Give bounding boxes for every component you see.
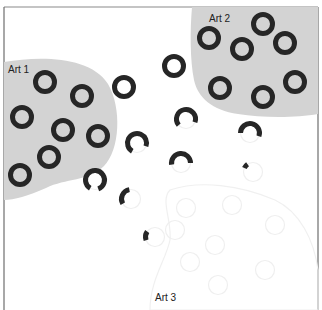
ghost-ring-icon [209, 276, 228, 295]
broken-ring-icon [128, 134, 147, 152]
ring-icon [115, 78, 134, 97]
broken-ring-icon [121, 190, 129, 204]
label-art2: Art 2 [209, 13, 231, 24]
broken-ring-icon [171, 153, 190, 164]
label-art3: Art 3 [155, 292, 177, 303]
broken-ring-icon [177, 110, 196, 126]
ghost-ring-icon [166, 221, 185, 240]
label-art1: Art 1 [8, 64, 30, 75]
broken-ring-icon [241, 124, 260, 137]
ghost-ring-icon [206, 236, 225, 255]
venn-ring-diagram: Art 1 Art 2 Art 3 [0, 0, 322, 310]
broken-ring-icon [86, 171, 105, 189]
ghost-ring-icon [146, 228, 165, 247]
ring-icon [165, 57, 184, 76]
ghost-ring-icon [181, 253, 200, 272]
ghost-ring-icon [223, 196, 242, 215]
broken-ring-icon [244, 164, 247, 168]
ghost-ring-icon [177, 199, 196, 218]
ghost-ring-icon [266, 216, 285, 235]
broken-ring-icon [146, 232, 148, 241]
ghost-ring-icon [256, 261, 275, 280]
